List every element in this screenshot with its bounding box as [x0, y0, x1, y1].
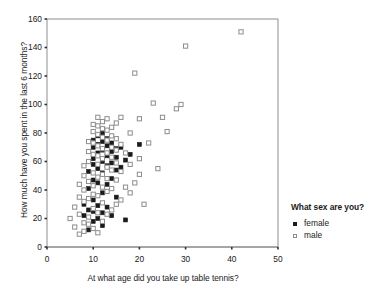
data-point — [100, 201, 104, 205]
data-point — [105, 138, 109, 142]
data-point — [86, 159, 90, 163]
data-point — [91, 192, 95, 196]
data-point — [100, 224, 104, 228]
data-point — [86, 149, 90, 153]
data-point — [137, 142, 141, 146]
data-point — [142, 202, 146, 206]
data-point — [110, 141, 114, 145]
data-point — [91, 129, 95, 133]
data-point — [110, 155, 114, 159]
data-point — [128, 152, 132, 156]
data-point — [105, 177, 109, 181]
legend-item-label: male — [304, 231, 322, 239]
data-point — [114, 195, 118, 199]
data-point — [77, 212, 81, 216]
data-point — [128, 162, 132, 166]
data-point — [100, 127, 104, 131]
legend-item-male[interactable]: male — [291, 230, 389, 241]
data-point — [91, 122, 95, 126]
data-point — [82, 164, 86, 168]
data-point — [73, 225, 77, 229]
data-point — [100, 120, 104, 124]
data-point — [96, 231, 100, 235]
data-point — [91, 178, 95, 182]
data-point — [100, 140, 104, 144]
data-point — [100, 157, 104, 161]
data-point — [91, 145, 95, 149]
data-point — [239, 30, 243, 34]
data-point — [86, 179, 90, 183]
legend-title: What sex are you? — [291, 202, 389, 212]
data-point — [105, 165, 109, 169]
data-point — [91, 157, 95, 161]
data-point — [96, 181, 100, 185]
data-point — [100, 191, 104, 195]
data-point — [100, 135, 104, 139]
data-point — [105, 189, 109, 193]
data-point — [105, 182, 109, 186]
data-point — [137, 117, 141, 121]
data-point — [96, 162, 100, 166]
legend-item-label: female — [304, 219, 329, 227]
data-point — [100, 185, 104, 189]
data-point — [105, 151, 109, 155]
data-point — [91, 171, 95, 175]
data-point — [86, 222, 90, 226]
data-point — [174, 107, 178, 111]
data-point — [77, 195, 81, 199]
data-point — [123, 151, 127, 155]
open-square-icon — [293, 234, 297, 238]
data-point — [100, 172, 104, 176]
data-point — [77, 232, 81, 236]
data-point — [124, 218, 128, 222]
data-point — [100, 211, 104, 215]
data-point — [87, 208, 91, 212]
data-point — [91, 141, 95, 145]
data-point — [87, 228, 91, 232]
data-point — [128, 131, 132, 135]
data-point — [82, 199, 86, 203]
data-point — [96, 175, 100, 179]
data-point — [114, 178, 118, 182]
data-point — [91, 198, 95, 202]
data-point — [91, 162, 95, 166]
data-point — [82, 188, 86, 192]
data-point — [110, 125, 114, 129]
data-point — [82, 221, 86, 225]
data-point — [110, 177, 114, 181]
data-point — [114, 121, 118, 125]
data-point — [96, 211, 100, 215]
data-point — [105, 144, 109, 148]
data-point — [91, 219, 95, 223]
plot-area — [0, 0, 391, 302]
data-point — [114, 161, 118, 165]
data-point — [119, 165, 123, 169]
data-point — [96, 154, 100, 158]
data-point — [82, 174, 86, 178]
data-point — [137, 172, 141, 176]
data-point — [110, 145, 114, 149]
data-point — [96, 132, 100, 136]
data-point — [110, 208, 114, 212]
scatter-plot-figure: How much have you spent in the last 6 mo… — [0, 0, 391, 302]
data-point — [77, 182, 81, 186]
data-point — [86, 196, 90, 200]
data-point — [114, 168, 118, 172]
data-point — [133, 71, 137, 75]
data-point — [68, 216, 72, 220]
data-point — [82, 229, 86, 233]
data-point — [110, 150, 114, 154]
data-point — [114, 202, 118, 206]
data-point — [82, 214, 86, 218]
data-point — [105, 205, 109, 209]
data-point — [96, 124, 100, 128]
data-point — [179, 102, 183, 106]
data-point — [184, 44, 188, 48]
data-point — [133, 181, 137, 185]
data-point — [96, 167, 100, 171]
data-point — [91, 184, 95, 188]
data-point — [91, 206, 95, 210]
data-point — [96, 217, 100, 221]
legend-item-female[interactable]: female — [291, 218, 389, 229]
data-point — [100, 147, 104, 151]
